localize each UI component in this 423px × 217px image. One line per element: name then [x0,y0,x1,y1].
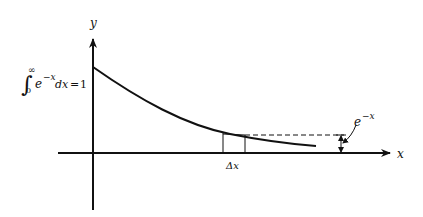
exponential-curve [93,67,316,146]
integrand-exponent: −x [43,72,56,82]
strip-top-edge [223,134,245,135]
exponential-decay-diagram: y x Δx e −x ∫ ∞ 0 e −x dx = 1 [0,0,423,217]
integral-equals: = [70,78,79,91]
curve-label-base: e [354,115,361,129]
integral-expression: ∫ ∞ 0 e −x dx = 1 [21,65,87,97]
integral-lower-limit: 0 [26,86,31,95]
y-axis-label: y [89,16,97,30]
integral-result: 1 [80,78,87,91]
curve-label-exponent: −x [362,111,375,121]
integral-upper-limit: ∞ [28,65,36,75]
integral-differential: dx [55,78,69,91]
integrand-base: e [35,77,42,91]
x-axis-label: x [397,147,404,161]
delta-x-label: Δx [225,160,239,171]
